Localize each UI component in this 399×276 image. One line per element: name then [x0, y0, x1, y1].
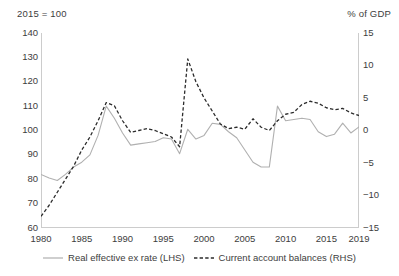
legend-swatch-dashed-icon: [194, 254, 214, 262]
chart-legend: Real effective ex rate (LHS) Current acc…: [0, 252, 399, 263]
series-line-real-effective-ex-rate: [41, 106, 359, 180]
chart-plot-svg: [41, 33, 359, 228]
x-axis-tick-1980: 1980: [21, 233, 61, 244]
legend-label-current-account-balances: Current account balances (RHS): [219, 252, 356, 263]
plot-area: [41, 33, 359, 228]
legend-item-real-effective-ex-rate: Real effective ex rate (LHS): [43, 252, 185, 263]
x-axis-tick-2010: 2010: [266, 233, 306, 244]
x-axis-tick-1985: 1985: [62, 233, 102, 244]
x-axis-tick-2000: 2000: [184, 233, 224, 244]
chart-figure: 2015 = 100 % of GDP 60708090100110120130…: [0, 0, 399, 276]
legend-label-real-effective-ex-rate: Real effective ex rate (LHS): [68, 252, 185, 263]
legend-swatch-solid-icon: [43, 254, 63, 262]
x-axis-tick-2005: 2005: [225, 233, 265, 244]
x-axis-tick-2019: 2019: [339, 233, 379, 244]
x-axis-tick-1990: 1990: [103, 233, 143, 244]
x-axis-tick-1995: 1995: [143, 233, 183, 244]
legend-item-current-account-balances: Current account balances (RHS): [194, 252, 356, 263]
